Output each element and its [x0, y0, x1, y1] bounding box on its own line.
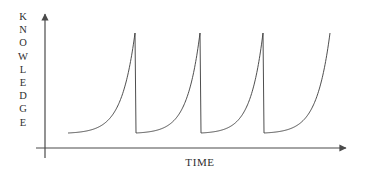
knowledge-curve — [68, 33, 330, 133]
curve-drop-2 — [200, 33, 201, 133]
curve-segment-3 — [201, 33, 263, 133]
chart-canvas — [0, 0, 369, 179]
curve-drop-3 — [263, 33, 264, 133]
curve-segment-1 — [68, 33, 135, 133]
x-axis-label: TIME — [150, 156, 250, 168]
curve-segment-2 — [136, 33, 200, 133]
curve-segment-4 — [264, 33, 330, 133]
curve-drop-1 — [135, 33, 136, 133]
knowledge-vs-time-chart: K N O W L E D G E TIME — [0, 0, 369, 179]
